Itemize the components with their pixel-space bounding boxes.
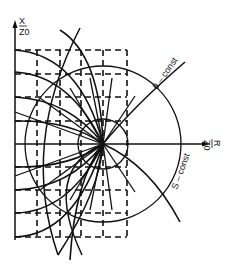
svg-text:Z0: Z0 <box>19 27 30 37</box>
vertical-arrowhead <box>13 20 18 28</box>
s-const-label: S – const <box>169 152 191 191</box>
s-const-curve <box>103 144 180 222</box>
impedance-diagram: X Z0 R Z0 θ – const S – const <box>0 0 231 273</box>
svg-text:X: X <box>19 16 25 26</box>
vertical-axis-label: X Z0 <box>19 16 30 37</box>
horizontal-axis-label: R Z0 <box>202 139 222 151</box>
svg-text:R: R <box>212 140 222 147</box>
svg-text:Z0: Z0 <box>202 140 212 151</box>
theta-const-label: θ – const <box>150 55 179 91</box>
